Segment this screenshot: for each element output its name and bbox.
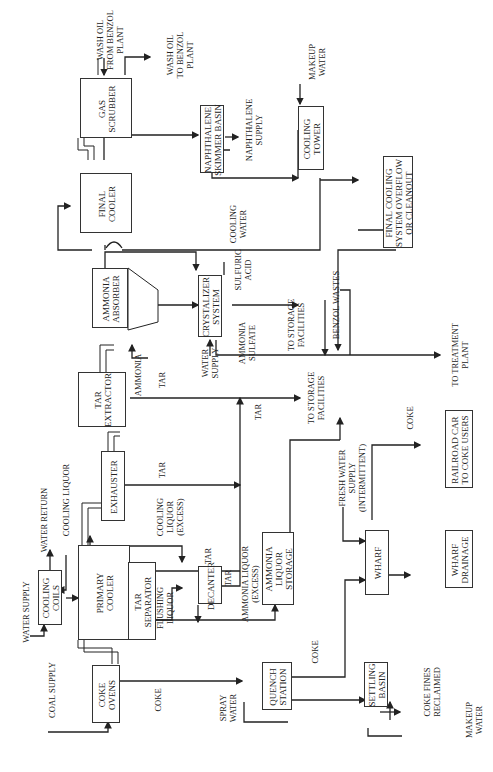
wharf-drainage: WHARF DRAINAGE	[445, 530, 473, 588]
label-cooling-water: COOLING WATER	[228, 205, 248, 243]
naphthalene-skimmer: NAPHTHALENE SKIMMER BASIN	[200, 105, 224, 173]
label-tar-3: TAR	[203, 548, 213, 564]
label-cooling-liquor: COOLING LIQUOR	[61, 464, 71, 536]
coke-ovens: COKE OVENS	[92, 665, 120, 723]
label-to-treatment: TO TREATMENT PLANT	[450, 323, 470, 387]
settling-basin: SETTLING BASIN	[364, 662, 388, 707]
cooling-coils: COOLING COILS	[38, 570, 62, 625]
label-to-storage-2: TO STORAGE FACILITIES	[286, 299, 306, 351]
label-water-return: WATER RETURN	[39, 488, 49, 552]
tar-extractor: TAR EXTRACTOR	[78, 372, 126, 427]
label-coke-2: COKE	[310, 640, 320, 663]
exhauster: EXHAUSTER	[101, 451, 125, 521]
label-wash-oil-to: WASH OIL TO BENZOL PLANT	[165, 32, 195, 79]
label-benzol-wastes: BENZOL WASTES	[331, 271, 341, 339]
label-tar-5: TAR	[253, 404, 263, 420]
railroad-car: RAILROAD CAR TO COKE USERS	[445, 410, 473, 488]
gas-scrubber: GAS SCRUBBER	[80, 78, 132, 138]
label-ammonia-liquor-excess: AMMONIA LIQUOR (EXCESS)	[240, 546, 260, 622]
label-makeup-water-2: MAKEUP WATER	[307, 44, 327, 80]
cooling-tower: COOLING TOWER	[298, 106, 324, 170]
label-spray-water: SPRAY WATER	[218, 694, 238, 722]
label-flushing-liquor: FLUSHING LIQUOR	[155, 587, 175, 629]
label-coal-supply: COAL SUPPLY	[47, 662, 57, 718]
label-ammonia-sulfate: AMMONIA SULFATE	[237, 322, 257, 365]
label-water-supply: WATER SUPPLY	[21, 581, 31, 642]
ammonia-absorber: AMMONIA ABSORBER	[92, 268, 128, 328]
label-coke-3: COKE	[405, 406, 415, 429]
label-makeup-water-1: MAKEUP WATER	[464, 702, 484, 738]
primary-cooler: PRIMARY COOLER	[78, 545, 130, 640]
tar-separator: TAR SEPARATOR	[128, 562, 156, 640]
label-coke-1: COKE	[153, 688, 163, 711]
ammonia-liquor-storage: AMMONIA LIQUOR STORAGE	[262, 532, 294, 605]
decanter: DECANTER	[198, 566, 222, 604]
label-wash-oil-from: WASH OIL FROM BENZOL PLANT	[95, 10, 125, 70]
label-to-storage-1: TO STORAGE FACILITIES	[306, 372, 326, 424]
wharf: WHARF	[365, 530, 389, 595]
label-tar-1: TAR	[157, 462, 167, 478]
label-naphthalene-supply: NAPHTHALENE SUPPLY	[244, 99, 264, 161]
label-sulfuric-acid: SULFURIC ACID	[233, 249, 253, 290]
final-cooling-overflow: FINAL COOLING SYSTEM OVERFLOW OR CLEANOU…	[383, 156, 413, 248]
quench-station: QUENCH STATION	[262, 662, 292, 710]
label-ammonia: AMMONIA	[133, 354, 143, 397]
label-tar-4: TAR	[223, 570, 233, 586]
label-fresh-water: FRESH WATER SUPPLY (INTERMITTENT)	[337, 444, 367, 512]
label-cooling-liquor-excess: COOLING LIQUOR (EXCESS)	[155, 498, 185, 536]
label-tar-2: TAR	[157, 372, 167, 388]
crystalizer-system: CRYSTALIZER SYSTEM	[198, 275, 222, 337]
final-cooler: FINAL COOLER	[80, 173, 132, 233]
label-water-supply-2: WATER SUPPLY	[200, 348, 220, 379]
label-coke-fines: COKE FINES RECLAIMED	[422, 667, 442, 717]
